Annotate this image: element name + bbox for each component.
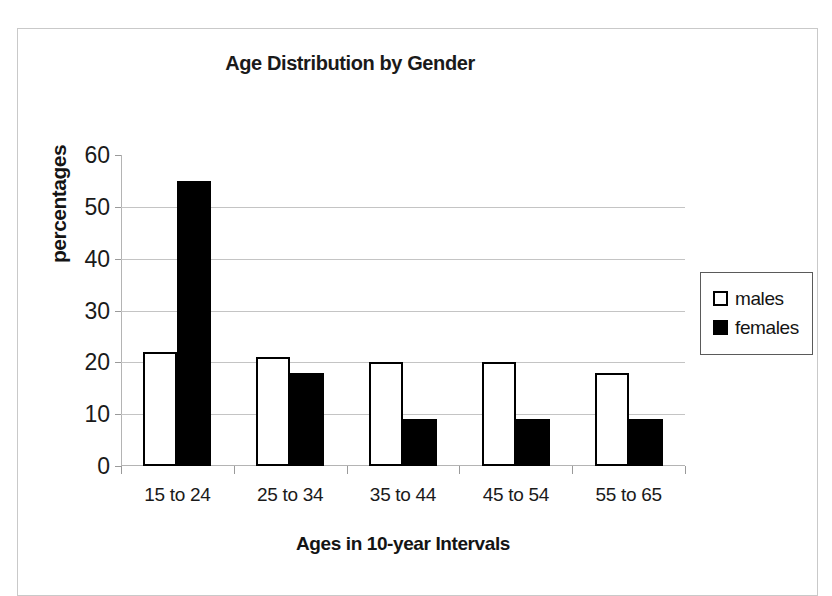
x-axis-tick-label: 25 to 34 — [257, 484, 323, 506]
chart-title: Age Distribution by Gender — [0, 52, 700, 75]
y-axis-tick-label: 10 — [84, 401, 110, 428]
x-axis-tick — [234, 466, 235, 474]
bar-females-35-to-44 — [403, 419, 437, 466]
bar-females-15-to-24 — [177, 181, 211, 466]
legend-label-males: males — [735, 288, 784, 310]
x-axis-tick-label: 55 to 65 — [595, 484, 661, 506]
x-axis-tick — [685, 466, 686, 474]
legend-item-males: males — [713, 284, 802, 313]
x-axis-tick-label: 45 to 54 — [483, 484, 549, 506]
y-axis-title: percentages — [47, 233, 71, 263]
legend-swatch-males-icon — [713, 291, 728, 306]
bar-females-45-to-54 — [516, 419, 550, 466]
x-axis-tick — [459, 466, 460, 474]
bar-males-15-to-24 — [143, 352, 177, 466]
y-axis-tick — [115, 259, 121, 260]
bar-males-45-to-54 — [482, 362, 516, 466]
legend-label-females: females — [735, 317, 799, 339]
legend: males females — [700, 272, 813, 355]
y-axis-tick — [115, 155, 121, 156]
y-axis-tick — [115, 207, 121, 208]
bar-males-25-to-34 — [256, 357, 290, 466]
y-axis-tick-label: 20 — [84, 349, 110, 376]
y-axis-tick-label: 50 — [84, 193, 110, 220]
y-axis-tick-label: 40 — [84, 245, 110, 272]
bar-males-55-to-65 — [595, 373, 629, 466]
legend-item-females: females — [713, 313, 802, 342]
y-axis-tick — [115, 311, 121, 312]
x-axis-tick-label: 15 to 24 — [144, 484, 210, 506]
x-axis-tick — [572, 466, 573, 474]
plot-area: 0102030405060 15 to 2425 to 3435 to 4445… — [121, 155, 685, 466]
y-axis-tick-label: 30 — [84, 297, 110, 324]
x-axis-title: Ages in 10-year Intervals — [121, 533, 685, 555]
y-axis-tick — [115, 362, 121, 363]
bar-chart: Age Distribution by Gender percentages 0… — [0, 0, 832, 596]
bar-females-55-to-65 — [629, 419, 663, 466]
y-axis-tick-label: 60 — [84, 142, 110, 169]
x-axis-tick — [347, 466, 348, 474]
y-axis-tick — [115, 414, 121, 415]
x-axis-tick — [121, 466, 122, 474]
legend-swatch-females-icon — [713, 320, 728, 335]
x-axis-tick-label: 35 to 44 — [370, 484, 436, 506]
bar-females-25-to-34 — [290, 373, 324, 466]
bar-males-35-to-44 — [369, 362, 403, 466]
y-axis-tick-label: 0 — [97, 453, 110, 480]
